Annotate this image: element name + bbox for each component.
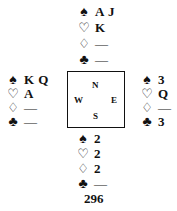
diamond-icon: ♢	[7, 100, 19, 115]
north-diamonds-cards: —	[95, 36, 109, 51]
club-icon: ♣	[7, 114, 19, 129]
east-hearts-cards: Q	[158, 86, 169, 101]
south-diamonds-cards: 2	[94, 161, 101, 176]
diamond-icon: ♢	[77, 161, 89, 176]
compass-west-label: W	[74, 95, 83, 105]
south-clubs-cards: —	[94, 176, 108, 191]
east-spades-cards: 3	[158, 72, 165, 87]
west-diamonds-cards: —	[24, 100, 38, 115]
south-spades-cards: 2	[94, 131, 101, 146]
west-spades-cards: K Q	[24, 72, 49, 87]
north-hearts-cards: K	[95, 20, 106, 35]
compass-south-label: S	[93, 111, 98, 121]
diamond-icon: ♢	[78, 36, 90, 51]
compass-box: N W E S	[67, 71, 125, 128]
page-number: 296	[84, 191, 104, 207]
heart-icon: ♡	[141, 86, 153, 101]
club-icon: ♣	[77, 176, 89, 191]
spade-icon: ♠	[77, 131, 89, 146]
compass-north-label: N	[92, 80, 99, 90]
club-icon: ♣	[78, 52, 90, 67]
north-spades-cards: A J	[95, 4, 115, 19]
heart-icon: ♡	[7, 86, 19, 101]
compass-east-label: E	[111, 95, 117, 105]
diamond-icon: ♢	[141, 100, 153, 115]
spade-icon: ♠	[7, 72, 19, 87]
club-icon: ♣	[141, 114, 153, 129]
south-hearts-cards: 2	[94, 146, 101, 161]
heart-icon: ♡	[78, 20, 90, 35]
heart-icon: ♡	[77, 146, 89, 161]
north-clubs-cards: —	[95, 52, 109, 67]
west-hearts-cards: A	[24, 86, 34, 101]
east-clubs-cards: 3	[158, 114, 165, 129]
spade-icon: ♠	[141, 72, 153, 87]
spade-icon: ♠	[78, 4, 90, 19]
east-diamonds-cards: —	[158, 100, 172, 115]
west-clubs-cards: —	[24, 114, 38, 129]
